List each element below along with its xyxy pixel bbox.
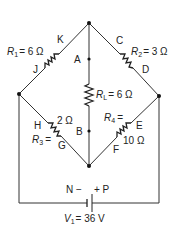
resistor-r1 xyxy=(45,54,59,68)
label-r3: R3= xyxy=(32,134,51,146)
label-rl: RL= 6 Ω xyxy=(96,89,133,101)
label-v1: V1= 36 V xyxy=(64,213,105,225)
node-bottom xyxy=(87,164,91,168)
label-r1: R1= 6 Ω xyxy=(7,46,44,58)
label-r3-value: 2 Ω xyxy=(57,115,73,126)
battery-v1 xyxy=(87,194,92,212)
wire-r2-branch xyxy=(89,23,159,96)
label-g: G xyxy=(58,140,66,151)
point-b-dot xyxy=(87,129,90,132)
node-top xyxy=(87,21,91,25)
label-d: D xyxy=(142,64,149,75)
label-r4: R4= xyxy=(104,112,123,124)
node-left xyxy=(17,92,21,96)
label-p-positive: + P xyxy=(94,184,110,195)
label-h: H xyxy=(34,120,41,131)
point-a-dot xyxy=(87,57,90,60)
label-r4-value: 10 Ω xyxy=(123,135,145,146)
label-k: K xyxy=(57,34,64,45)
node-right xyxy=(157,94,161,98)
label-a: A xyxy=(74,54,81,65)
label-f: F xyxy=(113,144,119,155)
bridge-circuit-diagram: K J A C D H G B E F R1= 6 Ω R2= 3 Ω RL= … xyxy=(0,0,181,234)
resistor-rl xyxy=(85,84,93,106)
label-r2: R2= 3 Ω xyxy=(131,46,168,58)
label-j: J xyxy=(33,64,38,75)
label-c: C xyxy=(116,35,123,46)
label-e: E xyxy=(136,120,143,131)
label-n-negative: N − xyxy=(66,184,82,195)
label-b: B xyxy=(76,126,83,137)
